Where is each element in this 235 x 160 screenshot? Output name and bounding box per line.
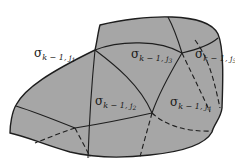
subdivided-region-diagram xyxy=(0,0,235,160)
label-sigma-j5: σk − 1, j5 xyxy=(195,45,235,61)
label-sigma-j2: σk − 1, j2 xyxy=(95,92,136,108)
label-sigma-j1: σk − 1, j1 xyxy=(34,44,75,60)
label-sigma-j3: σk − 1, j3 xyxy=(131,45,172,61)
label-sigma-j4: σk − 1, j4 xyxy=(170,93,211,109)
outer-region xyxy=(10,17,223,157)
